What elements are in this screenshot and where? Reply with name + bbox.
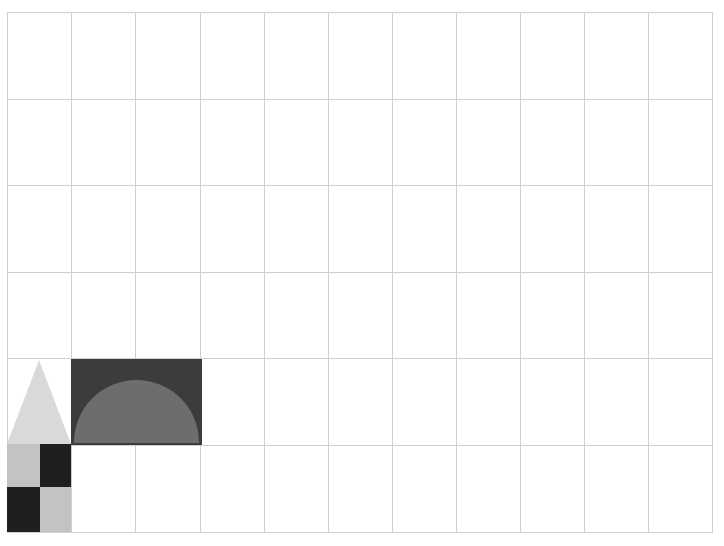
- checker-bottom-left: [7, 487, 40, 532]
- checker-top-right: [40, 444, 71, 487]
- shape-layer: [0, 0, 724, 546]
- checker-top-left: [7, 444, 40, 487]
- checker-bottom-right: [40, 487, 71, 532]
- triangle: [7, 360, 71, 444]
- shape-canvas: [0, 0, 724, 546]
